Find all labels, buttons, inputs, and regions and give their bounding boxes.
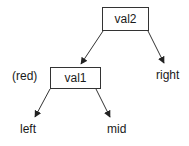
leaf-mid: mid — [107, 122, 126, 136]
node-val1: val1 — [50, 67, 101, 89]
leaf-right: right — [156, 68, 179, 82]
node-val1-label: val1 — [64, 71, 86, 85]
edge-val1-mid — [96, 89, 110, 117]
node-val1-annotation: (red) — [12, 69, 37, 83]
leaf-left: left — [20, 122, 36, 136]
edge-val1-left — [35, 89, 50, 117]
edge-val2-right — [148, 31, 164, 63]
node-val2-label: val2 — [114, 12, 136, 26]
node-val2: val2 — [102, 7, 149, 31]
edge-val2-val1 — [81, 31, 103, 64]
